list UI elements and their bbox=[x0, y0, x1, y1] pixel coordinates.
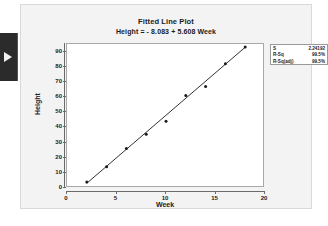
x-axis-tick-mark bbox=[165, 191, 166, 194]
y-axis-tick-labels: 0102030405060708090 bbox=[46, 43, 64, 187]
plot-area bbox=[66, 43, 264, 187]
statistic-value: 99.5% bbox=[312, 59, 325, 65]
y-axis-title: Height bbox=[34, 93, 41, 115]
data-point bbox=[244, 46, 247, 49]
y-axis-tick: 50 bbox=[55, 108, 62, 114]
fitted-regression-line bbox=[87, 47, 245, 183]
statistics-box: S2.24192R-Sq99.5%R-Sq(adj)99.5% bbox=[270, 44, 328, 65]
y-axis-tick: 80 bbox=[55, 63, 62, 69]
x-axis-title: Week bbox=[66, 201, 264, 208]
y-axis-tick: 0 bbox=[59, 184, 62, 190]
statistics-row: R-Sq(adj)99.5% bbox=[273, 59, 325, 65]
data-point bbox=[184, 94, 187, 97]
side-panel-toggle[interactable] bbox=[0, 33, 18, 81]
statistic-label: R-Sq(adj) bbox=[273, 59, 293, 65]
x-axis-tick-mark bbox=[116, 191, 117, 194]
data-point bbox=[165, 120, 168, 123]
x-axis-tick-mark bbox=[66, 191, 67, 194]
x-axis-tick-mark bbox=[264, 191, 265, 194]
y-axis-line bbox=[64, 43, 65, 187]
fitted-line-plot-panel: Fitted Line Plot Height = - 8.083 + 5.60… bbox=[20, 4, 312, 209]
y-axis-tick: 10 bbox=[55, 169, 62, 175]
play-arrow-icon bbox=[4, 52, 12, 62]
y-axis-tick: 40 bbox=[55, 123, 62, 129]
y-axis-tick: 70 bbox=[55, 78, 62, 84]
data-point bbox=[105, 165, 108, 168]
data-point bbox=[125, 147, 128, 150]
chart-subtitle: Height = - 8.083 + 5.608 Week bbox=[21, 28, 311, 35]
data-point bbox=[224, 62, 227, 65]
y-axis-tick: 30 bbox=[55, 139, 62, 145]
plot-svg bbox=[67, 44, 265, 188]
x-axis-tick-mark bbox=[215, 191, 216, 194]
y-axis-tick: 90 bbox=[55, 48, 62, 54]
data-point bbox=[85, 180, 88, 183]
y-axis-tick: 20 bbox=[55, 154, 62, 160]
data-point bbox=[204, 85, 207, 88]
y-axis-tick: 60 bbox=[55, 93, 62, 99]
chart-title: Fitted Line Plot bbox=[21, 17, 311, 26]
y-axis-tick-mark bbox=[63, 187, 66, 188]
data-point bbox=[145, 133, 148, 136]
